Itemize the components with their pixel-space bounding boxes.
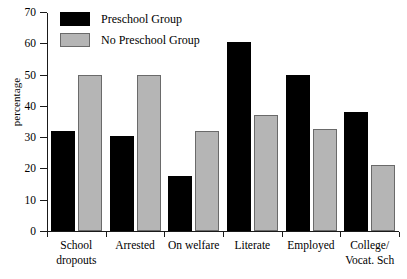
bar (168, 176, 192, 231)
bar (286, 75, 310, 231)
x-category-label-line2: Vocat. Sch (340, 253, 399, 268)
y-tick: 40 (40, 106, 47, 107)
bar (227, 42, 251, 231)
x-category-label-line1: On welfare (168, 239, 219, 251)
x-tick (164, 232, 165, 237)
x-tick (223, 232, 224, 237)
y-tick: 70 (40, 12, 47, 13)
y-tick: 60 (40, 43, 47, 44)
x-category-label-line1: College/ (350, 239, 389, 251)
x-tick (282, 232, 283, 237)
bar (110, 136, 134, 231)
x-tick (106, 232, 107, 237)
bar (78, 75, 102, 231)
legend: Preschool Group No Preschool Group (60, 10, 200, 52)
x-category-label: On welfare (164, 238, 223, 253)
legend-item-1: No Preschool Group (60, 31, 200, 49)
bar (371, 165, 395, 231)
y-axis-line (47, 13, 48, 232)
bar (137, 75, 161, 231)
y-tick: 50 (40, 75, 47, 76)
x-category-label-line2: dropouts (47, 253, 106, 268)
y-tick-label: 70 (25, 4, 37, 20)
y-tick: 20 (40, 168, 47, 169)
y-axis-label: percentage (10, 52, 22, 152)
bar (254, 115, 278, 231)
bar (313, 129, 337, 231)
x-category-label: Literate (223, 238, 282, 253)
y-tick-label: 30 (25, 129, 37, 145)
y-tick: 10 (40, 200, 47, 201)
y-tick-label: 60 (25, 35, 37, 51)
legend-label-preschool-group: Preschool Group (101, 12, 182, 26)
x-category-label-line1: School (60, 239, 92, 251)
y-tick-label: 0 (30, 223, 36, 239)
y-tick: 30 (40, 137, 47, 138)
legend-item-0: Preschool Group (60, 10, 200, 28)
x-tick (47, 232, 48, 237)
y-tick-label: 40 (25, 98, 37, 114)
legend-swatch-no-preschool-group (60, 33, 90, 47)
x-category-label: Arrested (106, 238, 165, 253)
y-tick: 0 (40, 231, 47, 232)
y-tick-label: 50 (25, 67, 37, 83)
y-tick-label: 10 (25, 192, 37, 208)
bar (344, 112, 368, 231)
x-category-label: Employed (282, 238, 341, 253)
bar-chart: percentage 010203040506070 Schooldropout… (0, 0, 407, 279)
bar (195, 131, 219, 231)
x-category-label: College/Vocat. Sch (340, 238, 399, 267)
bar (51, 131, 75, 231)
x-category-label-line1: Literate (234, 239, 270, 251)
x-tick (340, 232, 341, 237)
legend-label-no-preschool-group: No Preschool Group (101, 33, 200, 47)
legend-swatch-preschool-group (60, 12, 90, 26)
x-category-label-line1: Arrested (115, 239, 155, 251)
x-category-label-line1: Employed (287, 239, 334, 251)
x-tick (399, 232, 400, 237)
x-category-label: Schooldropouts (47, 238, 106, 267)
y-tick-label: 20 (25, 160, 37, 176)
